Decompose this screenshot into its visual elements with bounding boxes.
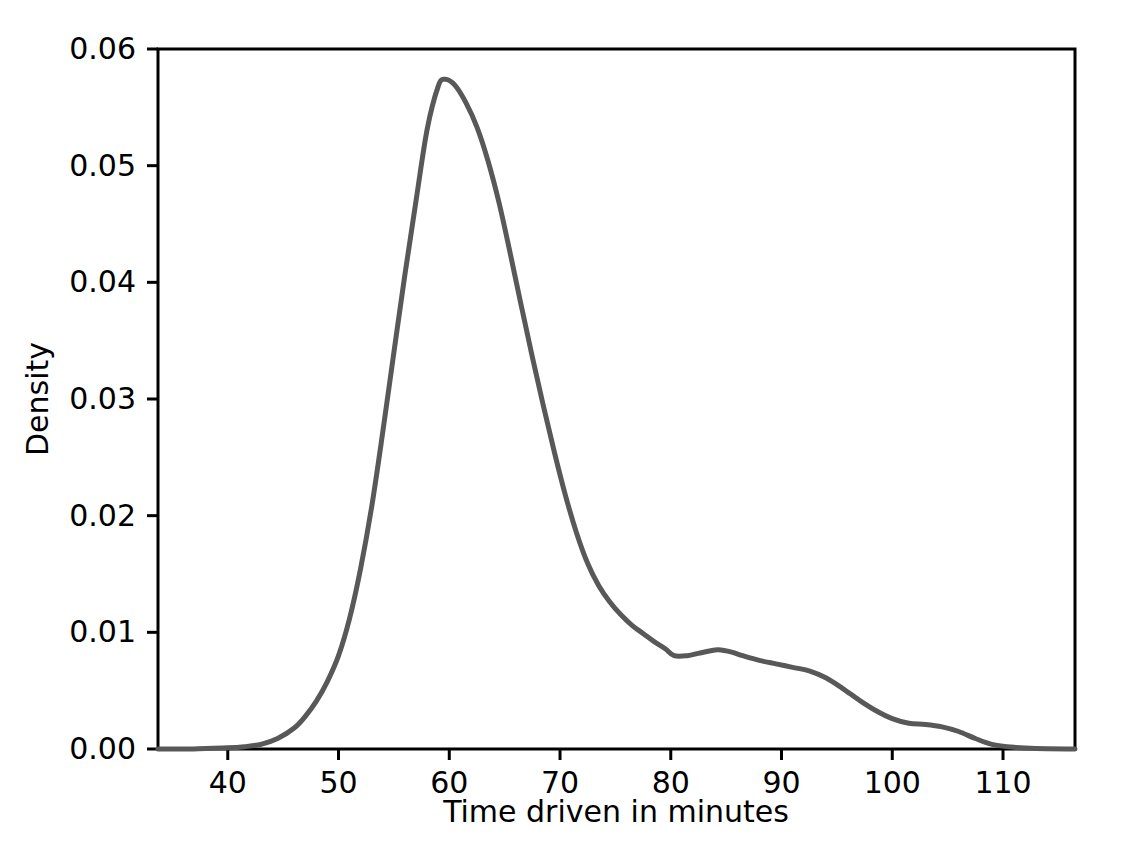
x-ticklabel-40: 40 bbox=[209, 765, 247, 800]
y-axis-tickmarks bbox=[147, 49, 158, 749]
x-ticklabel-50: 50 bbox=[319, 765, 357, 800]
x-ticklabel-110: 110 bbox=[974, 765, 1031, 800]
y-ticklabel-0.06: 0.06 bbox=[69, 31, 136, 66]
x-axis-title: Time driven in minutes bbox=[442, 794, 789, 829]
y-axis-ticklabels: 0.000.010.020.030.040.050.06 bbox=[69, 31, 136, 766]
y-ticklabel-0.05: 0.05 bbox=[69, 148, 136, 183]
chart-canvas: 405060708090100110 0.000.010.020.030.040… bbox=[0, 0, 1121, 859]
y-ticklabel-0.01: 0.01 bbox=[69, 614, 136, 649]
y-ticklabel-0.04: 0.04 bbox=[69, 264, 136, 299]
y-ticklabel-0.00: 0.00 bbox=[69, 731, 136, 766]
density-plot-figure: 405060708090100110 0.000.010.020.030.040… bbox=[0, 0, 1121, 859]
y-ticklabel-0.02: 0.02 bbox=[69, 498, 136, 533]
x-ticklabel-100: 100 bbox=[864, 765, 921, 800]
y-ticklabel-0.03: 0.03 bbox=[69, 381, 136, 416]
plot-area-background bbox=[158, 49, 1075, 749]
x-axis-tickmarks bbox=[228, 749, 1003, 760]
y-axis-title: Density bbox=[20, 342, 55, 456]
